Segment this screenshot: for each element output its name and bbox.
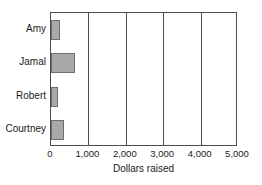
bar-courtney [51,120,64,140]
bar-row-courtney [51,114,64,148]
bar-chart: Amy Jamal Robert Courtney 0 1,000 2,000 … [0,0,262,185]
bar-amy [51,20,60,40]
xtick-label-0: 0 [47,149,52,159]
plot-area [50,12,237,146]
bar-jamal [51,53,75,73]
xtick-label-2000: 2,000 [113,149,137,159]
gridline-2000 [126,13,127,145]
xtick-label-5000: 5,000 [225,149,249,159]
xtick-label-1000: 1,000 [76,149,100,159]
gridline-4000 [201,13,202,145]
x-axis-title: Dollars raised [50,164,237,174]
gridline-3000 [163,13,164,145]
category-label-courtney: Courtney [0,124,46,134]
bar-robert [51,87,58,107]
bar-row-jamal [51,47,75,81]
gridline-1000 [88,13,89,145]
bar-row-amy [51,13,60,47]
xtick-label-3000: 3,000 [150,149,174,159]
bar-row-robert [51,80,58,114]
category-label-robert: Robert [0,91,46,101]
category-label-jamal: Jamal [0,57,46,67]
xtick-label-4000: 4,000 [188,149,212,159]
category-label-amy: Amy [0,24,46,34]
